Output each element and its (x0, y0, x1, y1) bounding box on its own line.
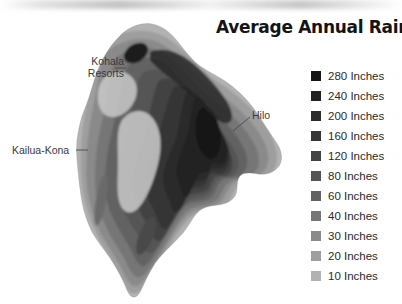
rainfall-map-page: Kohala Resorts Kailua-Kona Hilo Average … (0, 0, 402, 304)
legend-swatch-icon (311, 251, 321, 261)
legend-label: 30 Inches (328, 230, 378, 242)
legend-label: 280 Inches (328, 70, 384, 82)
legend-swatch-icon (311, 71, 321, 81)
legend-item: 280 Inches (311, 66, 401, 86)
legend-swatch-icon (311, 171, 321, 181)
legend-item: 20 Inches (311, 246, 401, 266)
legend-label: 200 Inches (328, 110, 384, 122)
map-label-kohala-line1: Kohala (64, 56, 124, 68)
map-label-kailua-kona: Kailua-Kona (12, 145, 69, 157)
legend-label: 120 Inches (328, 150, 384, 162)
legend-label: 240 Inches (328, 90, 384, 102)
legend-item: 240 Inches (311, 86, 401, 106)
legend-item: 80 Inches (311, 166, 401, 186)
legend-swatch-icon (311, 91, 321, 101)
legend-item: 200 Inches (311, 106, 401, 126)
legend-swatch-icon (311, 231, 321, 241)
map-label-hilo: Hilo (252, 110, 270, 122)
legend-swatch-icon (311, 131, 321, 141)
legend-label: 80 Inches (328, 170, 378, 182)
legend-item: 40 Inches (311, 206, 401, 226)
legend-swatch-icon (311, 151, 321, 161)
legend-swatch-icon (311, 191, 321, 201)
map-label-kohala-resorts: Kohala Resorts (64, 56, 124, 79)
legend-item: 160 Inches (311, 126, 401, 146)
legend-label: 160 Inches (328, 130, 384, 142)
hawaii-island-map: Kohala Resorts Kailua-Kona Hilo (0, 0, 310, 304)
legend-label: 60 Inches (328, 190, 378, 202)
legend-item: 10 Inches (311, 266, 401, 286)
legend-item: 30 Inches (311, 226, 401, 246)
map-label-kohala-line2: Resorts (64, 68, 124, 80)
legend-label: 20 Inches (328, 250, 378, 262)
legend-swatch-icon (311, 271, 321, 281)
legend-swatch-icon (311, 211, 321, 221)
legend-item: 60 Inches (311, 186, 401, 206)
legend-label: 10 Inches (328, 270, 378, 282)
legend-swatch-icon (311, 111, 321, 121)
page-title: Average Annual Rainfall (216, 17, 396, 37)
legend-label: 40 Inches (328, 210, 378, 222)
rainfall-legend: 280 Inches 240 Inches 200 Inches 160 Inc… (311, 66, 401, 286)
legend-item: 120 Inches (311, 146, 401, 166)
